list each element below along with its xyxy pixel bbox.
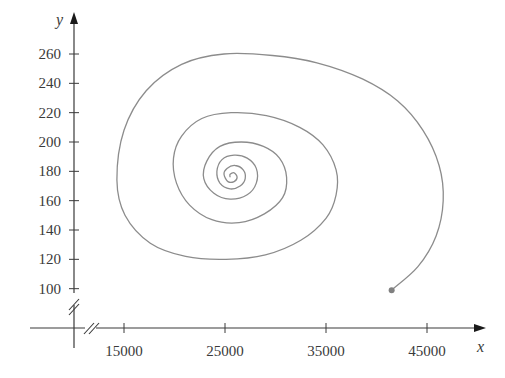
x-axis-arrow-icon — [474, 324, 486, 332]
x-axis-label: x — [476, 338, 484, 355]
y-axis-label: y — [54, 11, 64, 29]
y-axis-arrow-icon — [70, 12, 78, 24]
y-tick-label: 180 — [39, 163, 62, 179]
series — [117, 53, 443, 293]
y-tick-label: 200 — [39, 134, 62, 150]
x-tick-label: 45000 — [408, 343, 446, 359]
x-tick-label: 25000 — [206, 343, 244, 359]
y-tick-label: 120 — [39, 251, 62, 267]
y-tick-label: 240 — [39, 75, 62, 91]
start-point-marker — [389, 287, 395, 293]
phase-plot: y x 15000250003500045000 100120140160180… — [0, 0, 505, 378]
x-tick-label: 35000 — [307, 343, 345, 359]
trajectory-curve — [117, 53, 443, 290]
y-tick-label: 140 — [39, 222, 62, 238]
y-ticks: 100120140160180200220240260 — [39, 46, 80, 297]
axes: y x 15000250003500045000 100120140160180… — [30, 11, 486, 359]
x-tick-label: 15000 — [105, 343, 143, 359]
y-tick-label: 100 — [39, 281, 62, 297]
y-tick-label: 260 — [39, 46, 62, 62]
y-tick-label: 160 — [39, 193, 62, 209]
y-tick-label: 220 — [39, 105, 62, 121]
